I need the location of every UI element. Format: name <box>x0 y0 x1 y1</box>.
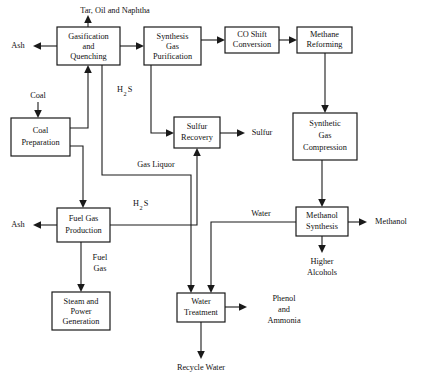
node-sulfur-recovery-label-1: Sulfur <box>187 122 208 131</box>
arrowhead-methanol-synthesis-in <box>318 199 326 207</box>
label-tar-oil-naphtha: Tar, Oil and Naphtha <box>80 6 150 15</box>
node-syngas-compression-label-1: Synthetic <box>309 119 341 128</box>
label-higher-alcohols-2: Alcohols <box>307 268 337 277</box>
node-syngas-compression-label-3: Compression <box>303 143 348 152</box>
label-phenol-ammonia-3: Ammonia <box>267 316 301 325</box>
label-methanol-product: Methanol <box>375 217 407 226</box>
arrowhead-gasification-in-coal <box>84 65 92 73</box>
node-sulfur-recovery[interactable]: Sulfur Recovery <box>174 117 220 148</box>
edge-gasification-gas-liquor-to-water-treatment <box>102 65 191 286</box>
arrowhead-water-treatment-in-gas-liquor <box>187 285 195 293</box>
arrowhead-phenol-ammonia-out <box>239 303 247 311</box>
node-methanol-synthesis-label-1: Methanol <box>306 211 338 220</box>
node-gasification-label-3: Quenching <box>70 52 106 61</box>
node-coal-preparation-label-1: Coal <box>33 126 49 135</box>
node-syngas-purification-label-2: Gas <box>166 42 179 51</box>
label-h2s-lower-h: H <box>133 199 139 208</box>
node-steam-power-generation-label-3: Generation <box>63 317 101 326</box>
process-flow-diagram: Gasification and Quenching Synthesis Gas… <box>0 0 421 382</box>
node-syngas-purification[interactable]: Synthesis Gas Purification <box>144 27 201 65</box>
label-ash-top: Ash <box>11 41 25 50</box>
label-higher-alcohols-1: Higher <box>310 257 333 266</box>
arrowhead-co-shift-in <box>217 36 225 44</box>
arrowhead-water-treatment-in-water <box>207 285 215 293</box>
arrowhead-sulfur-out <box>237 129 245 137</box>
node-syngas-compression-label-2: Gas <box>319 131 332 140</box>
node-water-treatment[interactable]: Water Treatment <box>177 293 225 322</box>
label-h2s-lower-subscript: 2 <box>139 204 142 211</box>
label-water: Water <box>251 209 271 218</box>
arrowhead-recycle-water-out <box>197 351 205 359</box>
node-water-treatment-label-2: Treatment <box>184 308 218 317</box>
node-fuel-gas-production[interactable]: Fuel Gas Production <box>57 208 110 242</box>
arrowhead-fuel-gas-in-coal <box>79 200 87 208</box>
node-fuel-gas-production-label-1: Fuel Gas <box>69 214 99 223</box>
node-methanol-synthesis-label-2: Synthesis <box>306 222 338 231</box>
label-h2s-upper-subscript: 2 <box>123 90 126 97</box>
label-phenol-ammonia-1: Phenol <box>272 294 296 303</box>
node-methane-reforming-label-1: Methane <box>310 30 339 39</box>
label-h2s-upper-h: H <box>117 85 123 94</box>
process-boxes: Gasification and Quenching Synthesis Gas… <box>11 27 357 330</box>
arrowhead-ash-bottom <box>33 221 41 229</box>
label-sulfur-product: Sulfur <box>252 128 273 137</box>
node-sulfur-recovery-label-2: Recovery <box>181 133 214 142</box>
arrowhead-higher-alcohols-out <box>318 245 326 253</box>
edge-coal-preparation-to-fuel-gas <box>70 146 83 201</box>
label-phenol-ammonia-2: and <box>278 305 291 314</box>
node-gasification-label-2: and <box>83 42 96 51</box>
node-co-shift-conversion-label-2: Conversion <box>233 40 272 49</box>
arrowhead-ash-top <box>33 42 41 50</box>
arrowhead-methane-reforming-in <box>289 36 297 44</box>
flow-diagram-canvas: Gasification and Quenching Synthesis Gas… <box>0 0 421 382</box>
arrowhead-tar <box>84 15 92 23</box>
label-h2s-lower-s: S <box>144 199 149 208</box>
label-recycle-water: Recycle Water <box>177 363 225 372</box>
label-ash-bottom: Ash <box>11 220 25 229</box>
node-co-shift-conversion[interactable]: CO Shift Conversion <box>225 27 279 53</box>
arrowhead-compression-in <box>321 105 329 113</box>
label-gas-liquor: Gas Liquor <box>137 160 175 169</box>
label-fuel-gas-2: Gas <box>94 264 107 273</box>
label-h2s-upper: H 2 S <box>117 85 133 98</box>
node-fuel-gas-production-label-2: Production <box>65 226 102 235</box>
node-steam-power-generation-label-1: Steam and <box>64 297 100 306</box>
node-gasification[interactable]: Gasification and Quenching <box>57 27 120 65</box>
label-fuel-gas-1: Fuel <box>93 253 108 262</box>
arrowhead-steam-power-in <box>77 284 85 292</box>
label-coal-feed: Coal <box>30 91 46 100</box>
node-steam-power-generation-label-2: Power <box>70 307 91 316</box>
arrowhead-methanol-out <box>359 218 367 226</box>
node-methane-reforming-label-2: Reforming <box>307 40 343 49</box>
node-water-treatment-label-1: Water <box>191 297 211 306</box>
label-h2s-upper-s: S <box>128 85 133 94</box>
node-gasification-label-1: Gasification <box>68 32 109 41</box>
arrowhead-sulfur-recovery-in-h2s-upper <box>166 129 174 137</box>
arrowhead-coal-preparation-in <box>34 110 42 118</box>
node-syngas-purification-label-1: Synthesis <box>157 32 189 41</box>
edge-coal-preparation-to-gasification <box>70 72 88 128</box>
node-methanol-synthesis[interactable]: Methanol Synthesis <box>296 207 348 236</box>
label-h2s-lower: H 2 S <box>133 199 149 212</box>
node-methane-reforming[interactable]: Methane Reforming <box>297 27 352 53</box>
node-syngas-purification-label-3: Purification <box>153 52 193 61</box>
node-steam-power-generation[interactable]: Steam and Power Generation <box>52 292 110 330</box>
edge-methanol-synthesis-water-to-water-treatment <box>211 222 296 286</box>
node-coal-preparation[interactable]: Coal Preparation <box>11 118 70 156</box>
edge-syngas-purification-to-sulfur-recovery <box>151 65 167 133</box>
arrowhead-syngas-purification-in <box>136 42 144 50</box>
node-coal-preparation-label-2: Preparation <box>21 138 60 147</box>
node-co-shift-conversion-label-1: CO Shift <box>237 30 267 39</box>
arrowhead-sulfur-recovery-in-h2s-lower <box>193 148 201 156</box>
node-syngas-compression[interactable]: Synthetic Gas Compression <box>293 113 357 160</box>
